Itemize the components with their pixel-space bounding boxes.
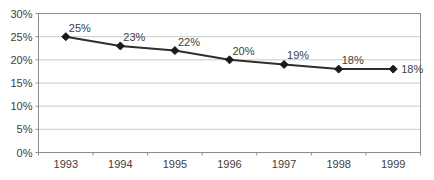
x-axis-tick-label: 1995 — [163, 158, 187, 170]
y-axis-tick-label: 15% — [10, 77, 32, 89]
y-axis-tick-label: 30% — [10, 8, 32, 20]
data-point-label: 22% — [178, 36, 200, 48]
data-point-label: 19% — [287, 49, 309, 61]
y-axis-tick-label: 10% — [10, 100, 32, 112]
x-axis-tick-label: 1998 — [326, 158, 350, 170]
y-axis-tick-label: 5% — [17, 123, 33, 135]
line-chart-svg: 0%5%10%15%20%25%30%199319941995199619971… — [0, 0, 434, 180]
x-axis-tick-label: 1996 — [217, 158, 241, 170]
data-point-label: 18% — [342, 54, 364, 66]
x-axis-tick-label: 1999 — [381, 158, 405, 170]
data-point-label: 18% — [401, 63, 423, 75]
data-point-label: 20% — [233, 45, 255, 57]
data-point-label: 25% — [69, 22, 91, 34]
y-axis-tick-label: 0% — [17, 147, 33, 159]
y-axis-tick-label: 20% — [10, 54, 32, 66]
data-point-label: 23% — [123, 31, 145, 43]
x-axis-tick-label: 1994 — [108, 158, 132, 170]
y-axis-tick-label: 25% — [10, 31, 32, 43]
line-chart: 0%5%10%15%20%25%30%199319941995199619971… — [0, 0, 434, 180]
x-axis-tick-label: 1997 — [272, 158, 296, 170]
x-axis-tick-label: 1993 — [54, 158, 78, 170]
